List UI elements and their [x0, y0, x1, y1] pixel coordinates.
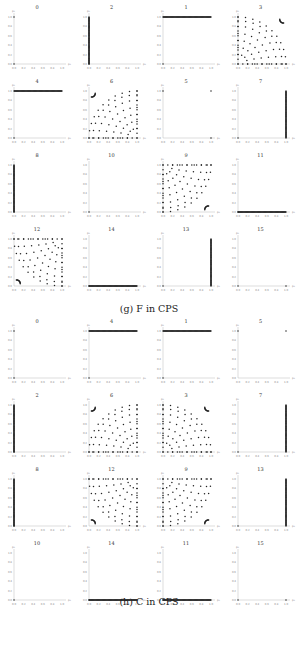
- svg-text:0.8: 0.8: [199, 141, 203, 144]
- svg-text:1.0: 1.0: [209, 455, 213, 458]
- svg-text:0.4: 0.4: [180, 529, 184, 532]
- svg-text:0.6: 0.6: [8, 571, 12, 574]
- scatter-plot: 0.00.20.40.60.81.00.00.20.40.60.81.0p₁p₂: [0, 226, 74, 301]
- svg-text:0.2: 0.2: [8, 54, 12, 57]
- svg-text:0.0: 0.0: [157, 137, 161, 140]
- svg-text:1.0: 1.0: [82, 16, 86, 19]
- svg-text:0.8: 0.8: [82, 173, 86, 176]
- g-panel-8: 80.00.20.40.60.81.00.00.20.40.60.81.0p₁p…: [0, 152, 74, 227]
- scatter-plot: 0.00.20.40.60.81.00.00.20.40.60.81.0p₁p₂: [224, 392, 298, 467]
- svg-text:1.0: 1.0: [209, 529, 213, 532]
- svg-text:0.6: 0.6: [157, 109, 161, 112]
- h-panel-5: 50.00.20.40.60.81.00.00.20.40.60.81.0p₁p…: [224, 318, 298, 393]
- svg-text:0.8: 0.8: [8, 561, 12, 564]
- h-panel-1: 10.00.20.40.60.81.00.00.20.40.60.81.0p₁p…: [149, 318, 223, 393]
- svg-text:p₁: p₁: [292, 450, 295, 454]
- svg-text:0.6: 0.6: [82, 35, 86, 38]
- g-panel-1: 10.00.20.40.60.81.00.00.20.40.60.81.0p₁p…: [149, 4, 223, 79]
- scatter-plot: 0.00.20.40.60.81.00.00.20.40.60.81.0p₁p₂: [149, 466, 223, 541]
- svg-text:0.0: 0.0: [157, 525, 161, 528]
- svg-text:1.0: 1.0: [82, 552, 86, 555]
- svg-text:1.0: 1.0: [231, 478, 235, 481]
- svg-text:0.0: 0.0: [8, 63, 12, 66]
- svg-text:p₁: p₁: [292, 524, 295, 528]
- svg-text:0.2: 0.2: [245, 455, 249, 458]
- svg-text:1.0: 1.0: [283, 67, 287, 70]
- svg-text:0.2: 0.2: [96, 289, 100, 292]
- svg-text:0.2: 0.2: [171, 215, 175, 218]
- scatter-plot: 0.00.20.40.60.81.00.00.20.40.60.81.0p₁p₂: [0, 4, 74, 79]
- svg-text:0.0: 0.0: [161, 67, 165, 70]
- svg-text:p₂: p₂: [161, 157, 164, 161]
- scatter-plot: 0.00.20.40.60.81.00.00.20.40.60.81.0p₁p₂: [149, 318, 223, 393]
- svg-text:0.2: 0.2: [231, 276, 235, 279]
- svg-text:0.4: 0.4: [180, 381, 184, 384]
- svg-text:0.0: 0.0: [82, 525, 86, 528]
- svg-text:0.8: 0.8: [82, 561, 86, 564]
- scatter-plot: 0.00.20.40.60.81.00.00.20.40.60.81.0p₁p₂: [224, 318, 298, 393]
- svg-text:0.6: 0.6: [41, 215, 45, 218]
- svg-text:0.2: 0.2: [96, 381, 100, 384]
- svg-text:0.0: 0.0: [235, 455, 239, 458]
- scatter-plot: 0.00.20.40.60.81.00.00.20.40.60.81.0p₁p₂: [224, 466, 298, 541]
- svg-text:p₂: p₂: [12, 231, 15, 235]
- svg-text:0.8: 0.8: [157, 413, 161, 416]
- g-panel-7: 70.00.20.40.60.81.00.00.20.40.60.81.0p₁p…: [224, 78, 298, 153]
- svg-text:0.8: 0.8: [231, 413, 235, 416]
- svg-text:0.2: 0.2: [82, 590, 86, 593]
- svg-text:0.4: 0.4: [106, 381, 110, 384]
- svg-text:0.4: 0.4: [82, 192, 86, 195]
- svg-text:0.6: 0.6: [157, 183, 161, 186]
- svg-text:0.6: 0.6: [231, 349, 235, 352]
- svg-text:p₁: p₁: [292, 210, 295, 214]
- svg-text:0.4: 0.4: [31, 455, 35, 458]
- svg-text:0.4: 0.4: [106, 215, 110, 218]
- scatter-plot: 0.00.20.40.60.81.00.00.20.40.60.81.0p₁p₂: [0, 152, 74, 227]
- svg-text:0.6: 0.6: [115, 529, 119, 532]
- h-panel-7: 70.00.20.40.60.81.00.00.20.40.60.81.0p₁p…: [224, 392, 298, 467]
- svg-text:1.0: 1.0: [8, 90, 12, 93]
- svg-text:0.2: 0.2: [8, 516, 12, 519]
- svg-text:0.4: 0.4: [157, 44, 161, 47]
- svg-text:1.0: 1.0: [8, 478, 12, 481]
- h-panel-9: 90.00.20.40.60.81.00.00.20.40.60.81.0p₁p…: [149, 466, 223, 541]
- svg-text:0.0: 0.0: [161, 289, 165, 292]
- svg-text:1.0: 1.0: [157, 16, 161, 19]
- svg-text:0.8: 0.8: [199, 289, 203, 292]
- svg-text:1.0: 1.0: [157, 552, 161, 555]
- svg-text:p₂: p₂: [161, 83, 164, 87]
- h-panel-6: 60.00.20.40.60.81.00.00.20.40.60.81.0p₁p…: [75, 392, 149, 467]
- svg-text:1.0: 1.0: [209, 289, 213, 292]
- svg-text:0.4: 0.4: [255, 215, 259, 218]
- svg-text:0.8: 0.8: [157, 99, 161, 102]
- svg-text:0.4: 0.4: [180, 141, 184, 144]
- svg-text:0.6: 0.6: [231, 257, 235, 260]
- svg-text:0.6: 0.6: [264, 215, 268, 218]
- svg-text:0.6: 0.6: [41, 455, 45, 458]
- h-panel-8: 80.00.20.40.60.81.00.00.20.40.60.81.0p₁p…: [0, 466, 74, 541]
- scatter-plot: 0.00.20.40.60.81.00.00.20.40.60.81.0p₁p₂: [75, 392, 149, 467]
- svg-text:1.0: 1.0: [209, 141, 213, 144]
- svg-text:0.6: 0.6: [190, 67, 194, 70]
- svg-text:p₁: p₁: [217, 524, 220, 528]
- svg-text:0.8: 0.8: [125, 381, 129, 384]
- svg-text:1.0: 1.0: [82, 238, 86, 241]
- svg-text:1.0: 1.0: [134, 455, 138, 458]
- svg-text:0.6: 0.6: [82, 183, 86, 186]
- svg-text:0.4: 0.4: [231, 118, 235, 121]
- g-panel-15: 150.00.20.40.60.81.00.00.20.40.60.81.0p₁…: [224, 226, 298, 301]
- svg-text:0.0: 0.0: [161, 529, 165, 532]
- svg-text:0.6: 0.6: [82, 423, 86, 426]
- svg-text:0.6: 0.6: [190, 289, 194, 292]
- svg-text:0.0: 0.0: [231, 63, 235, 66]
- svg-text:p₂: p₂: [12, 83, 15, 87]
- svg-text:0.2: 0.2: [22, 215, 26, 218]
- svg-text:0.0: 0.0: [86, 289, 90, 292]
- svg-text:0.0: 0.0: [82, 377, 86, 380]
- svg-text:1.0: 1.0: [60, 67, 64, 70]
- svg-text:p₂: p₂: [236, 231, 239, 235]
- svg-text:0.2: 0.2: [171, 289, 175, 292]
- svg-text:0.8: 0.8: [8, 25, 12, 28]
- svg-text:0.2: 0.2: [82, 442, 86, 445]
- svg-text:1.0: 1.0: [283, 289, 287, 292]
